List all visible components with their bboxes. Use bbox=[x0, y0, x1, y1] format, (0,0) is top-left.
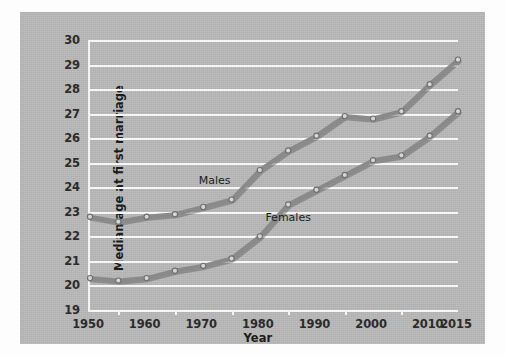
y-axis-tick-label: 20 bbox=[46, 278, 80, 292]
data-point-marker bbox=[144, 214, 149, 219]
data-point-marker bbox=[201, 263, 206, 268]
y-axis-tick-label: 27 bbox=[46, 107, 80, 121]
x-axis-minor-tick bbox=[345, 310, 347, 315]
data-point-marker bbox=[201, 204, 206, 209]
data-point-marker bbox=[172, 268, 177, 273]
x-axis-tick-label: 1990 bbox=[299, 317, 331, 331]
x-axis-tick-label: 2010 bbox=[412, 317, 444, 331]
x-axis-title: Year bbox=[244, 331, 273, 345]
y-axis-tick-label: 26 bbox=[46, 131, 80, 145]
data-point-marker bbox=[87, 275, 92, 280]
x-axis-minor-tick bbox=[401, 310, 403, 315]
y-axis-tick-label: 21 bbox=[46, 254, 80, 268]
y-axis-tick-label: 19 bbox=[46, 303, 80, 317]
x-axis-tick-label: 1980 bbox=[242, 317, 274, 331]
y-axis-tick-label: 22 bbox=[46, 229, 80, 243]
x-axis-minor-tick bbox=[232, 310, 234, 315]
data-point-marker bbox=[144, 275, 149, 280]
data-point-marker bbox=[342, 172, 347, 177]
y-axis-tick-label: 24 bbox=[46, 180, 80, 194]
y-axis-tick-label: 28 bbox=[46, 82, 80, 96]
data-point-marker bbox=[87, 214, 92, 219]
x-axis-tick-label: 1970 bbox=[185, 317, 217, 331]
x-axis-tick-label: 1960 bbox=[129, 317, 161, 331]
data-point-marker bbox=[370, 116, 375, 121]
y-axis-tick-label: 25 bbox=[46, 156, 80, 170]
data-series-group bbox=[90, 40, 458, 310]
series-label-males: Males bbox=[199, 173, 231, 186]
data-point-marker bbox=[399, 153, 404, 158]
series-line-shadow bbox=[91, 113, 459, 282]
data-point-marker bbox=[370, 158, 375, 163]
series-label-females: Females bbox=[265, 210, 311, 223]
data-point-marker bbox=[427, 133, 432, 138]
data-point-marker bbox=[399, 109, 404, 114]
y-axis-tick-label: 23 bbox=[46, 205, 80, 219]
data-point-marker bbox=[286, 202, 291, 207]
x-axis-tick-label: 1950 bbox=[72, 317, 104, 331]
data-point-marker bbox=[427, 82, 432, 87]
data-point-marker bbox=[229, 197, 234, 202]
y-axis-tick-label: 29 bbox=[46, 58, 80, 72]
series-line-males bbox=[90, 60, 458, 222]
data-point-marker bbox=[342, 113, 347, 118]
data-point-marker bbox=[314, 133, 319, 138]
x-axis-tick-label: 2015 bbox=[440, 317, 472, 331]
x-axis-minor-tick bbox=[118, 310, 120, 315]
x-axis-minor-tick bbox=[175, 310, 177, 315]
data-point-marker bbox=[116, 278, 121, 283]
data-point-marker bbox=[172, 212, 177, 217]
x-axis-tick-label: 2000 bbox=[355, 317, 387, 331]
data-point-marker bbox=[314, 187, 319, 192]
plot-area: 192021222324252627282930 MalesFemales bbox=[88, 40, 458, 312]
chart-figure: Median age at first marriage 19202122232… bbox=[20, 12, 485, 344]
data-point-marker bbox=[116, 219, 121, 224]
data-point-marker bbox=[455, 57, 460, 62]
data-point-marker bbox=[455, 109, 460, 114]
series-line-females bbox=[90, 111, 458, 280]
data-point-marker bbox=[286, 148, 291, 153]
x-axis-minor-tick bbox=[288, 310, 290, 315]
data-point-marker bbox=[257, 167, 262, 172]
data-point-marker bbox=[257, 234, 262, 239]
data-point-marker bbox=[229, 256, 234, 261]
series-line-shadow bbox=[91, 61, 459, 223]
y-axis-tick-label: 30 bbox=[46, 33, 80, 47]
